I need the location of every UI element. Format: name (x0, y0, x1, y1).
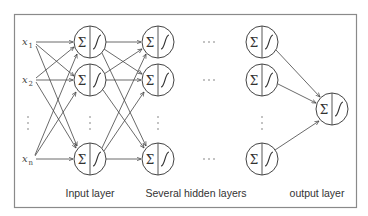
neural-network-diagram: Σ x 1 x 2 (0, 0, 368, 216)
svg-text:x: x (22, 153, 28, 164)
svg-text:1: 1 (29, 42, 33, 50)
diagram-frame (15, 15, 357, 208)
label-input-layer: Input layer (65, 187, 115, 199)
svg-text:2: 2 (29, 80, 33, 88)
neuron-sum-sigmoid-icon (316, 93, 348, 125)
svg-text:x: x (22, 74, 28, 85)
neuron-sum-sigmoid-icon (142, 26, 174, 58)
label-output-layer: output layer (290, 187, 345, 199)
label-hidden-layers: Several hidden layers (146, 187, 247, 199)
neuron-sum-sigmoid-icon (74, 143, 106, 175)
neuron-sum-sigmoid-icon (142, 64, 174, 96)
svg-text:n: n (29, 159, 34, 167)
neuron-sum-sigmoid-icon (74, 26, 106, 58)
neuron-sum-sigmoid-icon (142, 143, 174, 175)
neuron-sum-sigmoid-icon (74, 64, 106, 96)
neuron-sum-sigmoid-icon (246, 143, 278, 175)
neuron-sum-sigmoid-icon (246, 64, 278, 96)
output-layer-neuron (316, 93, 348, 125)
svg-text:x: x (22, 36, 28, 47)
neuron-sum-sigmoid-icon (246, 26, 278, 58)
